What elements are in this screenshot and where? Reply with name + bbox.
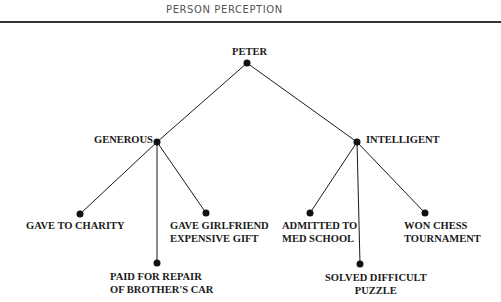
node-gift-dot [203, 210, 210, 217]
edge-intelligent-puzzle [357, 142, 360, 264]
node-repair-dot [154, 260, 161, 267]
node-label-peter: PETER [232, 45, 267, 58]
edge-intelligent-medschool [310, 142, 357, 213]
behavior-label-chess: WON CHESS TOURNAMENT [404, 219, 481, 245]
edge-generous-gift [157, 142, 206, 213]
node-label-intelligent: INTELLIGENT [366, 133, 440, 146]
behavior-label-medschool: ADMITTED TO MED SCHOOL [282, 219, 357, 245]
node-charity-dot [77, 211, 84, 218]
behavior-label-gift: GAVE GIRLFRIEND EXPENSIVE GIFT [170, 219, 269, 245]
node-peter-dot [244, 60, 251, 67]
edge-peter-intelligent [247, 63, 357, 142]
edge-generous-charity [80, 142, 157, 214]
behavior-label-puzzle: SOLVED DIFFICULT PUZZLE [325, 271, 427, 297]
node-generous-dot [154, 139, 161, 146]
node-intelligent-dot [354, 139, 361, 146]
edge-intelligent-chess [357, 142, 425, 213]
node-label-generous: GENEROUS [94, 133, 153, 146]
node-chess-dot [422, 210, 429, 217]
node-puzzle-dot [357, 261, 364, 268]
behavior-label-charity: GAVE TO CHARITY [26, 219, 125, 232]
edge-peter-generous [157, 63, 247, 142]
behavior-label-repair: PAID FOR REPAIR OF BROTHER'S CAR [110, 270, 213, 296]
node-medschool-dot [307, 210, 314, 217]
